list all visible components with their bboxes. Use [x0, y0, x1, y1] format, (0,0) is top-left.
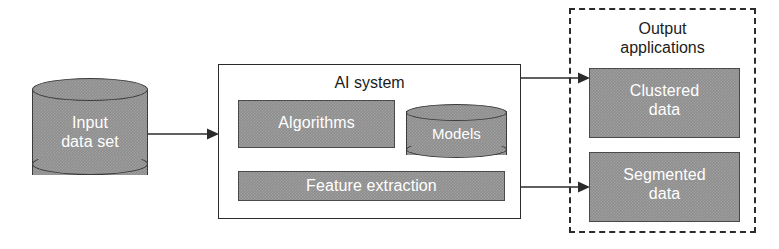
- models-label: Models: [406, 125, 507, 143]
- segmented-data-label: Segmented data: [590, 166, 739, 204]
- input-label-line-2: data set: [32, 133, 148, 152]
- input-data-set-label: Input data set: [32, 114, 148, 152]
- input-label-line-1: Input: [32, 114, 148, 133]
- output-applications-title: Output applications: [569, 19, 756, 57]
- clustered-label-line-2: data: [590, 101, 739, 120]
- models-cylinder: Models: [406, 104, 507, 162]
- cylinder-top-ellipse: [32, 78, 148, 101]
- feature-extraction-label: Feature extraction: [239, 177, 504, 196]
- output-title-line-2: applications: [569, 38, 756, 57]
- ai-system-title: AI system: [218, 73, 521, 92]
- output-title-line-1: Output: [569, 19, 756, 38]
- clustered-data-label: Clustered data: [590, 82, 739, 120]
- models-cylinder-top-ellipse: [406, 104, 507, 121]
- cylinder-bottom-ellipse: [32, 153, 148, 175]
- feature-extraction-box: Feature extraction: [238, 171, 505, 201]
- diagram-canvas: Input data set AI system Algorithms Mode…: [0, 0, 779, 249]
- segmented-label-line-2: data: [590, 185, 739, 204]
- models-cylinder-bottom-ellipse: [406, 141, 507, 158]
- segmented-label-line-1: Segmented: [590, 166, 739, 185]
- algorithms-label: Algorithms: [239, 114, 394, 133]
- input-data-set-cylinder: Input data set: [32, 78, 148, 186]
- arrow-input-to-ai-system: [148, 124, 220, 144]
- segmented-data-box: Segmented data: [589, 152, 740, 222]
- clustered-label-line-1: Clustered: [590, 82, 739, 101]
- clustered-data-box: Clustered data: [589, 68, 740, 138]
- algorithms-box: Algorithms: [238, 100, 395, 148]
